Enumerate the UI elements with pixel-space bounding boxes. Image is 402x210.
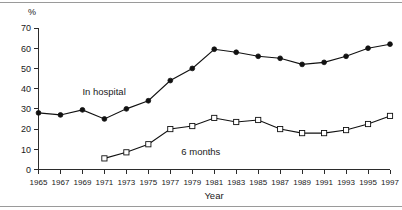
data-point-marker [234, 50, 239, 55]
data-point-marker [388, 42, 393, 47]
data-point-marker [124, 106, 129, 111]
data-point-marker [256, 117, 261, 122]
y-tick-label: 40 [21, 84, 31, 94]
x-tick-label: 1975 [139, 178, 157, 187]
x-tick-label: 1965 [30, 178, 48, 187]
data-point-marker [343, 127, 348, 132]
data-point-marker [321, 131, 326, 136]
data-point-marker [146, 142, 151, 147]
data-point-marker [58, 113, 63, 118]
y-tick-label: 70 [21, 23, 31, 33]
x-tick-label: 1979 [183, 178, 201, 187]
x-tick-label: 1989 [293, 178, 311, 187]
x-tick-label: 1993 [337, 178, 355, 187]
data-point-marker [387, 113, 392, 118]
x-axis-title: Year [204, 190, 223, 201]
y-tick-label: 50 [21, 64, 31, 74]
data-point-marker [300, 62, 305, 67]
x-tick-label: 1981 [205, 178, 223, 187]
x-tick-label: 1997 [381, 178, 399, 187]
x-tick-label: 1991 [315, 178, 333, 187]
x-tick-label: 1983 [227, 178, 245, 187]
x-tick-label: 1995 [359, 178, 377, 187]
y-tick-label: 60 [21, 44, 31, 54]
data-point-marker [366, 46, 371, 51]
y-tick-label: 10 [21, 145, 31, 155]
data-point-marker [300, 131, 305, 136]
y-tick-label: 0 [26, 165, 31, 175]
data-point-marker [124, 150, 129, 155]
y-tick-label: 20 [21, 124, 31, 134]
x-tick-label: 1985 [249, 178, 267, 187]
data-point-marker [80, 107, 85, 112]
x-tick-label: 1969 [74, 178, 92, 187]
chart-canvas: % 010203040506070 1965196719691971197319… [0, 0, 402, 210]
series-annotation-label: 6 months [181, 146, 220, 157]
x-tick-label: 1977 [161, 178, 179, 187]
data-point-marker [146, 98, 151, 103]
data-point-marker [344, 54, 349, 59]
x-tick-label: 1987 [271, 178, 289, 187]
data-point-marker [168, 78, 173, 83]
data-point-marker [256, 54, 261, 59]
data-point-marker [212, 115, 217, 120]
data-point-marker [212, 47, 217, 52]
x-tick-label: 1967 [52, 178, 70, 187]
x-tick-label: 1971 [96, 178, 114, 187]
data-point-marker [190, 123, 195, 128]
data-point-marker [322, 60, 327, 65]
data-point-marker [102, 156, 107, 161]
data-point-marker [168, 126, 173, 131]
data-point-marker [234, 119, 239, 124]
data-point-marker [278, 126, 283, 131]
x-tick-label: 1973 [117, 178, 135, 187]
y-axis-unit-label: % [28, 7, 36, 17]
y-tick-label: 30 [21, 104, 31, 114]
data-point-marker [190, 66, 195, 71]
data-point-marker [365, 121, 370, 126]
data-point-marker [278, 56, 283, 61]
data-point-marker [36, 111, 41, 116]
series-annotation-label: In hospital [82, 86, 125, 97]
line-chart-figure: % 010203040506070 1965196719691971197319… [0, 0, 402, 210]
data-point-marker [102, 117, 107, 122]
